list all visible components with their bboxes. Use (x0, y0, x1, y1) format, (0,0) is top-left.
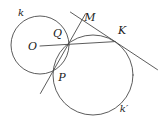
label-circle-k-prime: k′ (120, 103, 129, 114)
label-point-k: K (117, 24, 127, 37)
figure-labels: k O Q M K P k′ (18, 7, 129, 114)
figure-strokes (11, 12, 158, 115)
label-point-q: Q (53, 27, 62, 40)
geometry-figure: k O Q M K P k′ (0, 0, 161, 130)
label-center-o: O (28, 40, 37, 53)
label-point-p: P (57, 71, 66, 84)
label-circle-k: k (18, 7, 24, 18)
segment-o-k (40, 42, 115, 46)
label-point-m: M (83, 11, 96, 24)
figure-canvas: k O Q M K P k′ (0, 0, 161, 130)
